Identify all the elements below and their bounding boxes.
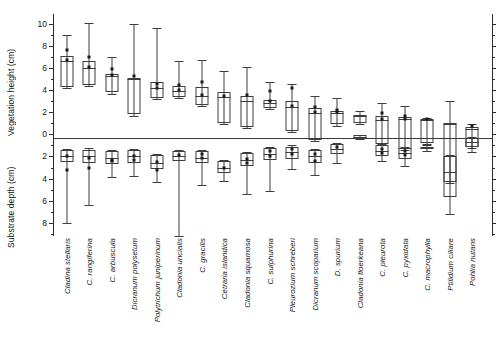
- whisker-cap: [107, 177, 116, 178]
- tick-major: [49, 24, 53, 25]
- tick-minor: [492, 35, 495, 36]
- y-tick-label: 4: [42, 85, 47, 95]
- tick-major: [49, 90, 53, 91]
- box-substrate-depth: [194, 14, 210, 236]
- data-point-marker: [403, 154, 406, 157]
- data-point-marker: [65, 155, 68, 158]
- box-substrate-depth: [59, 14, 75, 236]
- box-substrate-depth: [284, 14, 300, 236]
- tick-minor: [492, 57, 495, 58]
- tick-minor: [51, 168, 54, 169]
- x-axis-species-label: Ptilidium ciliare: [445, 238, 454, 291]
- plot-area: [53, 14, 493, 236]
- box-substrate-depth: [419, 14, 435, 236]
- data-point-marker: [223, 166, 226, 169]
- box-substrate-depth: [126, 14, 142, 236]
- box-substrate-depth: [374, 14, 390, 236]
- y-tick-label: 8: [42, 218, 47, 228]
- box-substrate-depth: [352, 14, 368, 236]
- y-axis-title-vegetation-height: Vegetation height (cm): [6, 18, 16, 136]
- tick-minor: [492, 190, 495, 191]
- whisker-line: [179, 150, 180, 236]
- x-axis-species-label: Pohlia nutans: [468, 238, 477, 286]
- data-point-marker: [313, 159, 316, 162]
- tick-major: [49, 68, 53, 69]
- y-tick-label: 2: [42, 151, 47, 161]
- box-substrate-depth: [104, 14, 120, 236]
- data-point-marker: [155, 168, 158, 171]
- y-tick-label: 4: [42, 174, 47, 184]
- whisker-cap: [355, 139, 364, 140]
- y-axis-title-substrate-depth: Substrate depth (cm): [6, 140, 16, 248]
- tick-major: [49, 156, 53, 157]
- tick-minor: [51, 79, 54, 80]
- tick-major: [49, 179, 53, 180]
- box-substrate-depth: [329, 14, 345, 236]
- data-point-marker: [200, 156, 203, 159]
- tick-minor: [51, 57, 54, 58]
- boxplot-figure: Vegetation height (cm) Substrate depth (…: [0, 0, 503, 354]
- x-axis-species-label: Cladina stellaris: [62, 238, 71, 294]
- tick-major: [49, 112, 53, 113]
- tick-minor: [492, 168, 495, 169]
- whisker-cap: [130, 176, 139, 177]
- x-axis-species-label: C. rangiferina: [85, 238, 94, 286]
- left-axis-line: [53, 14, 54, 236]
- tick-minor: [51, 101, 54, 102]
- data-point-marker: [336, 145, 339, 148]
- y-tick-label: 2: [42, 107, 47, 117]
- data-point-marker: [155, 161, 158, 164]
- data-point-marker: [246, 157, 249, 160]
- x-axis-species-label: Cetraria islandica: [220, 238, 229, 299]
- y-tick-label: 6: [42, 196, 47, 206]
- x-axis-species-label: C. pyxidata: [400, 238, 409, 278]
- y-axis-tick-labels: 10864202468: [20, 0, 47, 354]
- x-axis-species-label: Cladonia uncialis: [175, 238, 184, 298]
- median-line: [353, 137, 366, 138]
- tick-major: [49, 134, 53, 135]
- tick-minor: [492, 101, 495, 102]
- whisker-cap: [423, 151, 432, 152]
- data-point-marker: [65, 168, 68, 171]
- tick-major: [492, 46, 496, 47]
- data-point-marker: [313, 153, 316, 156]
- tick-major: [492, 24, 496, 25]
- data-point-marker: [381, 152, 384, 155]
- whisker-cap: [400, 166, 409, 167]
- tick-minor: [492, 79, 495, 80]
- y-tick-label: 8: [42, 41, 47, 51]
- median-line: [466, 142, 479, 143]
- tick-major: [492, 223, 496, 224]
- tick-major: [492, 201, 496, 202]
- whisker-cap: [220, 181, 229, 182]
- box-substrate-depth: [442, 14, 458, 236]
- whisker-cap: [378, 161, 387, 162]
- data-point-marker: [88, 156, 91, 159]
- data-point-marker: [88, 166, 91, 169]
- iqr-box: [443, 156, 456, 197]
- x-axis-species-label: C. gracilis: [197, 238, 206, 273]
- tick-minor: [51, 190, 54, 191]
- whisker-cap: [85, 205, 94, 206]
- box-substrate-depth: [81, 14, 97, 236]
- tick-major: [492, 112, 496, 113]
- box-substrate-depth: [239, 14, 255, 236]
- x-axis-species-label: Dicranum polysetum: [130, 238, 139, 310]
- y-tick-label: 10: [38, 19, 47, 29]
- whisker-cap: [288, 169, 297, 170]
- right-axis-line: [492, 14, 493, 236]
- data-point-marker: [381, 147, 384, 150]
- median-line: [443, 172, 456, 173]
- tick-major: [49, 201, 53, 202]
- tick-major: [492, 68, 496, 69]
- y-tick-label: 0: [42, 129, 47, 139]
- x-axis-species-label: Dicranum scoparium: [310, 238, 319, 310]
- whisker-cap: [197, 185, 206, 186]
- x-axis-species-label: D. spurium: [333, 238, 342, 276]
- x-axis-species-label: Cladonia squamosa: [243, 238, 252, 308]
- whisker-cap: [310, 175, 319, 176]
- data-point-marker: [268, 155, 271, 158]
- whisker-cap: [243, 194, 252, 195]
- data-point-marker: [178, 154, 181, 157]
- x-axis-species-label: C. arbuscula: [107, 238, 116, 282]
